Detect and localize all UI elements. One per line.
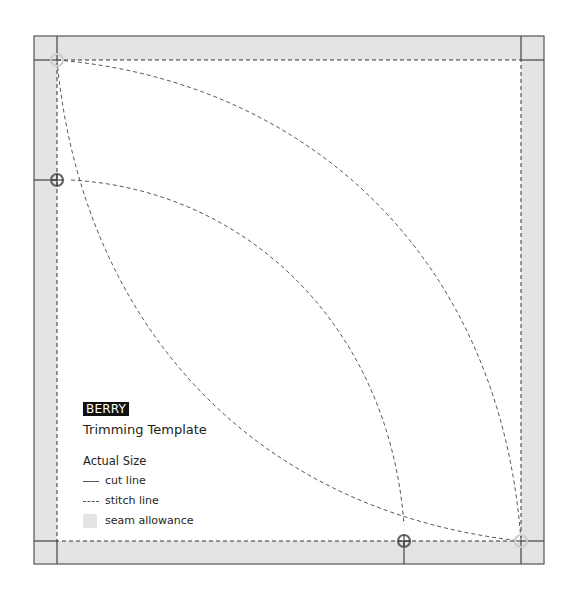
stitch-line-swatch-icon <box>83 501 99 502</box>
legend-item-stitch-line: stitch line <box>83 494 207 508</box>
scale-label: Actual Size <box>83 454 207 468</box>
legend-label: stitch line <box>105 494 159 508</box>
seam-allowance-swatch-icon <box>83 514 97 528</box>
template-title: Trimming Template <box>83 422 207 438</box>
registration-mark-bottom <box>398 535 410 547</box>
legend-label: seam allowance <box>105 514 194 528</box>
legend-item-seam-allowance: seam allowance <box>83 514 207 528</box>
registration-mark-left <box>51 174 63 186</box>
pattern-name-badge: BERRY <box>83 402 129 416</box>
legend-item-cut-line: cut line <box>83 474 207 488</box>
cut-line-swatch-icon <box>83 481 99 482</box>
template-legend: BERRY Trimming Template Actual Size cut … <box>83 398 207 528</box>
legend-label: cut line <box>105 474 146 488</box>
